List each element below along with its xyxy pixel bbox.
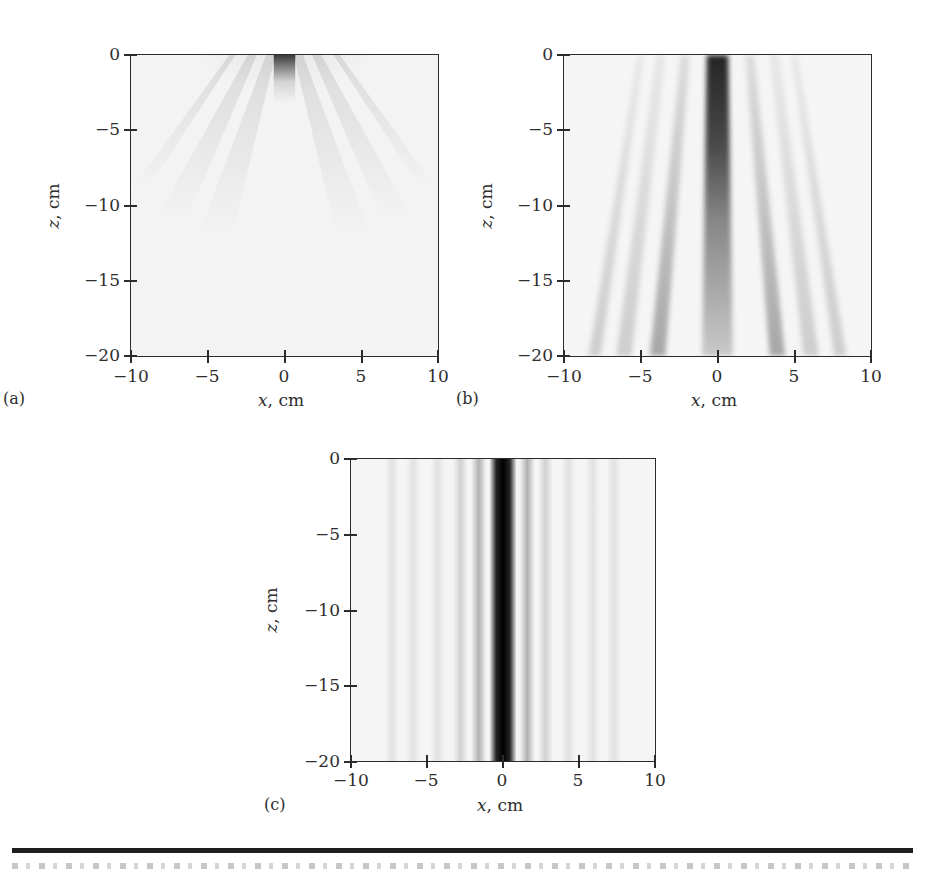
ytick-label: −15 bbox=[296, 677, 340, 694]
xtick-label: −10 bbox=[331, 772, 371, 789]
truncated-caption-text bbox=[12, 863, 913, 869]
xtick-c-4 bbox=[654, 755, 656, 768]
xtick-label: 0 bbox=[482, 772, 522, 789]
xtick-label: −5 bbox=[406, 772, 446, 789]
xtick-c-3 bbox=[578, 755, 580, 768]
heatmap-c-plot-area bbox=[350, 458, 656, 762]
ytick-c-1 bbox=[344, 534, 357, 536]
x-axis-label: x, cm bbox=[477, 795, 523, 815]
ytick-label: 0 bbox=[296, 450, 340, 467]
ytick-label: −5 bbox=[296, 526, 340, 543]
ytick-c-3 bbox=[344, 685, 357, 687]
xtick-c-2 bbox=[502, 755, 504, 768]
xtick-c-0 bbox=[350, 755, 352, 768]
xtick-c-1 bbox=[426, 755, 428, 768]
xtick-label: 10 bbox=[635, 772, 675, 789]
figure-separator-rule bbox=[12, 848, 913, 853]
ytick-label: −20 bbox=[296, 753, 340, 770]
panel-label-c: (c) bbox=[264, 795, 285, 814]
y-axis-label: z, cm bbox=[261, 587, 281, 632]
ytick-c-0 bbox=[344, 458, 357, 460]
ytick-label: −10 bbox=[296, 602, 340, 619]
heatmap-c-image bbox=[351, 459, 655, 761]
xtick-label: 5 bbox=[558, 772, 598, 789]
panel-c: 0 −5 −10 −15 −20 −10 −5 0 5 10 x, cm z, … bbox=[0, 0, 925, 840]
ytick-c-2 bbox=[344, 610, 357, 612]
